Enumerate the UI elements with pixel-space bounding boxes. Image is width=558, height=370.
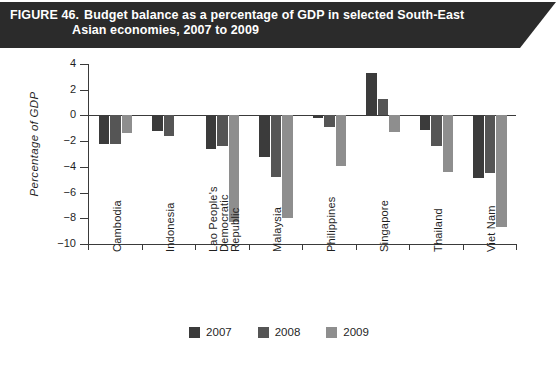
- bar-malaysia-2008: [271, 115, 282, 177]
- y-tick-label: −8: [22, 211, 76, 223]
- y-tick: [80, 167, 88, 168]
- legend-swatch-2008: [258, 327, 269, 338]
- x-tick: [409, 244, 410, 250]
- bar-cambodia-2009: [122, 115, 133, 133]
- bar-philippines-2008: [324, 115, 335, 127]
- legend-item-2009[interactable]: 2009: [326, 326, 369, 338]
- bar-singapore-2008: [378, 99, 389, 116]
- bar-indonesia-2007: [152, 115, 163, 130]
- x-tick: [88, 244, 89, 250]
- y-tick-label: 4: [22, 57, 76, 69]
- x-tick: [463, 244, 464, 250]
- bar-philippines-2007: [313, 115, 324, 118]
- y-tick-label: −10: [22, 237, 76, 249]
- x-axis-label: Philippines: [325, 197, 337, 252]
- x-axis-label: Indonesia: [164, 202, 176, 252]
- y-tick-label: −4: [22, 160, 76, 172]
- x-axis-label: Republic: [229, 208, 241, 252]
- bar-cambodia-2008: [110, 115, 121, 143]
- legend-swatch-2009: [326, 327, 337, 338]
- bar-thailand-2008: [431, 115, 442, 146]
- figure-title-line2: Asian economies, 2007 to 2009: [72, 23, 480, 38]
- y-tick: [80, 115, 88, 116]
- y-tick-label: 2: [22, 83, 76, 95]
- legend-label-2008: 2008: [275, 326, 301, 338]
- bar-viet-nam-2009: [496, 115, 507, 227]
- y-tick-label: −2: [22, 134, 76, 146]
- bar-lao-people-s-democratic-republic-2009: [229, 115, 240, 222]
- legend-item-2008[interactable]: 2008: [258, 326, 301, 338]
- bar-cambodia-2007: [99, 115, 110, 143]
- x-tick: [249, 244, 250, 250]
- y-tick: [80, 64, 88, 65]
- y-tick: [80, 244, 88, 245]
- x-axis-label: Viet Nam: [485, 205, 497, 252]
- bar-viet-nam-2007: [473, 115, 484, 178]
- bar-lao-people-s-democratic-republic-2008: [217, 115, 228, 146]
- x-tick: [195, 244, 196, 250]
- figure-header-text: FIGURE 46.Budget balance as a percentage…: [10, 8, 480, 38]
- figure-header-banner: FIGURE 46.Budget balance as a percentage…: [0, 2, 556, 48]
- chart-legend: 200720082009: [0, 326, 558, 338]
- x-axis-label: Democratic: [218, 194, 230, 252]
- x-axis-label: Cambodia: [111, 200, 123, 252]
- bar-thailand-2009: [443, 115, 454, 172]
- x-tick: [302, 244, 303, 250]
- x-axis-label: Thailand: [432, 208, 444, 252]
- y-tick-label: −6: [22, 186, 76, 198]
- legend-label-2009: 2009: [343, 326, 369, 338]
- bar-philippines-2009: [336, 115, 347, 165]
- bar-malaysia-2009: [282, 115, 293, 218]
- bar-chart: Percentage of GDP 420−2−4−6−8−10 Cambodi…: [0, 50, 558, 370]
- legend-swatch-2007: [189, 327, 200, 338]
- x-axis-label: Singapore: [378, 200, 390, 252]
- y-tick: [80, 193, 88, 194]
- y-tick: [80, 90, 88, 91]
- bar-singapore-2009: [389, 115, 400, 132]
- legend-label-2007: 2007: [206, 326, 232, 338]
- figure-number: FIGURE 46.: [10, 8, 79, 22]
- bar-viet-nam-2008: [485, 115, 496, 173]
- figure-title-line1: Budget balance as a percentage of GDP in…: [84, 8, 464, 22]
- y-tick-label: 0: [22, 108, 76, 120]
- x-tick: [516, 244, 517, 250]
- bar-thailand-2007: [420, 115, 431, 129]
- legend-item-2007[interactable]: 2007: [189, 326, 232, 338]
- bar-singapore-2007: [366, 73, 377, 115]
- bar-indonesia-2008: [164, 115, 175, 136]
- x-tick: [356, 244, 357, 250]
- bar-lao-people-s-democratic-republic-2007: [206, 115, 217, 148]
- x-axis-label: Malaysia: [271, 207, 283, 252]
- y-tick: [80, 218, 88, 219]
- x-axis-label: Lao People's: [207, 186, 219, 252]
- y-tick: [80, 141, 88, 142]
- bar-malaysia-2007: [259, 115, 270, 156]
- x-tick: [142, 244, 143, 250]
